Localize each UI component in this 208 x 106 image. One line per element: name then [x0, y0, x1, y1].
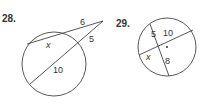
- geometry-figures: 6 5 x 10 5 10 x 8: [0, 0, 208, 106]
- label-x: x: [145, 52, 151, 62]
- center-dot: [166, 46, 168, 48]
- figure-29: 5 10 x 8: [138, 18, 196, 76]
- label-5: 5: [89, 34, 94, 44]
- label-5: 5: [151, 29, 156, 39]
- label-10: 10: [53, 65, 63, 75]
- circle-28: [22, 32, 86, 96]
- label-8: 8: [165, 56, 170, 66]
- figure-28: 6 5 x 10: [22, 17, 103, 96]
- label-6: 6: [80, 17, 85, 27]
- label-10: 10: [163, 28, 173, 38]
- label-x: x: [45, 40, 51, 50]
- secant-bottom: [30, 21, 103, 84]
